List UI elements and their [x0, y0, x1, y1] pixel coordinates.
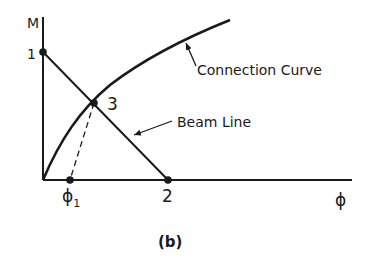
point-2-label: 2	[162, 186, 173, 206]
point-3-label: 3	[107, 94, 118, 114]
phi1-label-base: ϕ	[62, 186, 73, 206]
connection-curve	[43, 20, 230, 180]
connection-curve-leader-arrow	[186, 43, 196, 66]
phi1-marker	[66, 176, 74, 184]
connection-curve-label: Connection Curve	[197, 62, 322, 78]
y-axis-label: M	[27, 15, 39, 31]
figure-caption: (b)	[158, 233, 182, 251]
point-1-label: 1	[27, 46, 36, 62]
phi1-label: ϕ1	[62, 186, 80, 210]
beam-line-leader-arrow	[134, 121, 172, 135]
beam-line	[43, 52, 168, 180]
point-3-marker	[90, 99, 98, 107]
point-2-marker	[164, 176, 172, 184]
point-1-marker	[39, 48, 47, 56]
moment-rotation-diagram: M 1 3 2 ϕ1 ϕ Connection Curve Beam Line …	[0, 0, 372, 263]
beam-line-label: Beam Line	[177, 114, 251, 130]
phi1-label-sub: 1	[73, 197, 80, 210]
x-axis-label: ϕ	[335, 190, 346, 210]
